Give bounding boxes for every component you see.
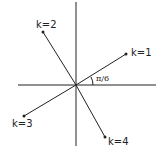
angle-label: π/6: [96, 74, 109, 83]
label-k3: k=3: [12, 118, 33, 129]
root-diagram: π/6 k=1 k=2 k=3 k=4: [0, 0, 165, 158]
label-k2: k=2: [36, 19, 57, 30]
point-k2: [42, 31, 45, 34]
ray-k4: [76, 85, 105, 137]
ray-k3: [24, 85, 76, 116]
label-k1: k=1: [131, 47, 152, 58]
point-k4: [104, 136, 107, 139]
ray-k2: [43, 32, 76, 85]
label-k4: k=4: [108, 136, 129, 147]
point-k1: [125, 53, 128, 56]
angle-arc: [91, 77, 93, 85]
